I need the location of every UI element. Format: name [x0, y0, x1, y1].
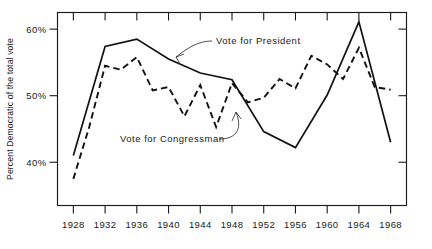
- y-tick-label-40: 40%: [26, 157, 46, 168]
- x-tick-label-1928: 1928: [62, 219, 85, 230]
- y-axis-title: Percent Democratic of the total vote: [5, 38, 15, 180]
- y-tick-label-60: 60%: [26, 24, 46, 35]
- x-tick-label-1956: 1956: [284, 219, 307, 230]
- chart-container: 40%50%60% 192819321936194019441948195219…: [0, 0, 432, 249]
- x-tick-label-1964: 1964: [348, 219, 371, 230]
- x-axis-ticks-bottom: [73, 206, 390, 214]
- x-axis-ticks-top: [73, 13, 390, 21]
- annotation-label-president: Vote for President: [216, 35, 301, 46]
- y-axis-ticks-right: [399, 29, 407, 162]
- annotation-vote-for-congressman: Vote for Congressman: [120, 112, 241, 144]
- annotation-arrowhead-congressman: [232, 112, 241, 121]
- x-tick-label-1952: 1952: [252, 219, 275, 230]
- y-tick-label-50: 50%: [26, 90, 46, 101]
- series-line-vote-for-congressman: [73, 48, 390, 179]
- x-tick-label-1968: 1968: [379, 219, 402, 230]
- annotation-label-congressman: Vote for Congressman: [120, 133, 225, 144]
- x-tick-label-1948: 1948: [221, 219, 244, 230]
- x-tick-label-1944: 1944: [189, 219, 212, 230]
- x-tick-label-1940: 1940: [157, 219, 180, 230]
- x-tick-label-1936: 1936: [125, 219, 148, 230]
- annotation-vote-for-president: Vote for President: [176, 35, 301, 64]
- vote-percent-line-chart: 40%50%60% 192819321936194019441948195219…: [0, 0, 432, 249]
- x-tick-label-1960: 1960: [316, 219, 339, 230]
- x-axis-tick-labels: 1928193219361940194419481952195619601964…: [62, 219, 402, 230]
- x-tick-label-1932: 1932: [94, 219, 117, 230]
- y-axis-ticks: [50, 29, 58, 162]
- y-axis-tick-labels: 40%50%60%: [26, 24, 46, 168]
